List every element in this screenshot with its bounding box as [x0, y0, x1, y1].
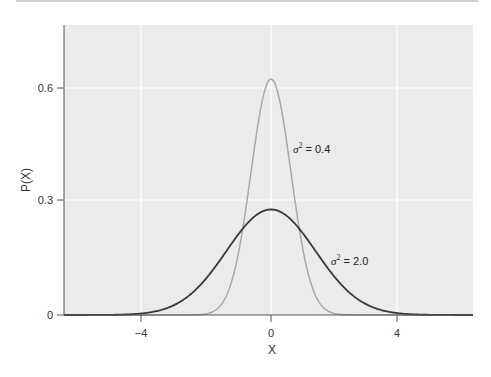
x-tick-label-0: 0	[268, 327, 274, 339]
y-tick-label-0.3: 0.3	[38, 194, 53, 206]
y-tick-label-0.6: 0.6	[38, 82, 53, 94]
x-tick-label-4: 4	[394, 327, 400, 339]
y-ticks	[57, 88, 64, 315]
x-axis-title: X	[268, 343, 276, 357]
x-tick-label-neg4: −4	[135, 327, 148, 339]
y-axis-title: P(X)	[19, 168, 33, 192]
x-ticks	[141, 315, 397, 322]
annotation-value: = 0.4	[302, 143, 330, 155]
plot-area	[64, 25, 473, 315]
annotation-value: = 2.0	[340, 255, 368, 267]
chart: 0 0.3 0.6 −4 0 4 X P(X) σ2 = 0.4 σ2 = 2.…	[0, 0, 491, 377]
y-tick-label-0: 0	[47, 309, 53, 321]
